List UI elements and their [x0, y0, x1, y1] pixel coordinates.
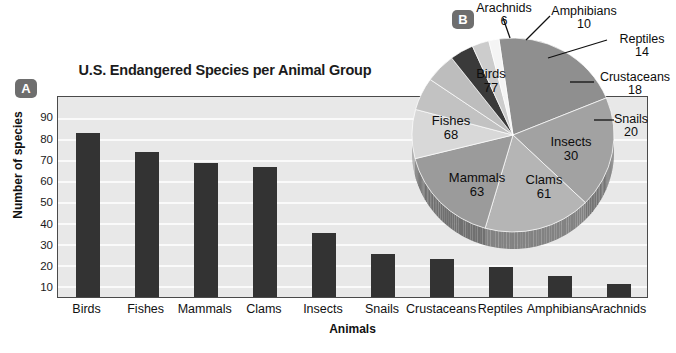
- bar-arachnids[interactable]: [607, 284, 631, 297]
- bar-crustaceans[interactable]: [430, 259, 454, 297]
- bar-mammals[interactable]: [194, 163, 218, 297]
- y-tick-40: 40: [23, 218, 53, 230]
- pie-label-clams: Clams 61: [515, 173, 573, 200]
- pie-label-fishes: Fishes 68: [420, 114, 482, 141]
- bar-chart-title: U.S. Endangered Species per Animal Group: [57, 62, 393, 78]
- bar-amphibians[interactable]: [548, 276, 572, 297]
- pie-label-arachnids: Arachnids 6: [468, 2, 540, 28]
- y-tick-10: 10: [23, 281, 53, 293]
- pie-label-amphibians: Amphibians 10: [544, 5, 624, 31]
- panel-badge-a: A: [15, 79, 37, 98]
- x-tick-reptiles: Reptiles: [478, 302, 523, 316]
- pie-label-birds: Birds 77: [460, 67, 522, 94]
- pie-label-crustaceans: Crustaceans 18: [594, 71, 676, 97]
- pie-label-reptiles: Reptiles 14: [612, 33, 672, 59]
- y-tick-80: 80: [23, 133, 53, 145]
- bar-birds[interactable]: [76, 133, 100, 297]
- pie-label-mammals: Mammals 63: [440, 171, 514, 198]
- y-tick-30: 30: [23, 239, 53, 251]
- bar-insects[interactable]: [312, 233, 336, 297]
- y-tick-50: 50: [23, 196, 53, 208]
- bar-chart-x-axis-label: Animals: [57, 322, 648, 336]
- bar-fishes[interactable]: [135, 152, 159, 297]
- x-tick-clams: Clams: [246, 302, 281, 316]
- y-tick-70: 70: [23, 154, 53, 166]
- bar-clams[interactable]: [253, 167, 277, 297]
- x-tick-fishes: Fishes: [127, 302, 164, 316]
- pie-chart-panel: Birds 77 Fishes 68 Mammals 63 Clams 61 I…: [398, 0, 676, 260]
- y-tick-20: 20: [23, 260, 53, 272]
- figure-root: U.S. Endangered Species per Animal Group…: [0, 0, 676, 353]
- pie-label-snails: Snails 20: [603, 113, 659, 139]
- bar-reptiles[interactable]: [489, 267, 513, 297]
- x-tick-insects: Insects: [303, 302, 343, 316]
- bar-chart-x-axis: Birds Fishes Mammals Clams Insects Snail…: [57, 302, 648, 322]
- x-tick-arachnids: Arachnids: [591, 302, 647, 316]
- bar-snails[interactable]: [371, 254, 395, 297]
- bar-chart-y-axis-label: Number of species: [11, 80, 25, 250]
- x-tick-amphibians: Amphibians: [527, 302, 592, 316]
- x-tick-mammals: Mammals: [178, 302, 232, 316]
- y-tick-60: 60: [23, 175, 53, 187]
- panel-badge-b: B: [452, 10, 474, 29]
- x-tick-birds: Birds: [72, 302, 100, 316]
- x-tick-crustaceans: Crustaceans: [406, 302, 476, 316]
- y-tick-90: 90: [23, 111, 53, 123]
- pie-label-insects: Insects 30: [540, 135, 602, 162]
- x-tick-snails: Snails: [365, 302, 399, 316]
